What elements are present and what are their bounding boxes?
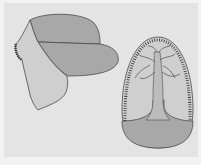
oval-flap [122,37,193,148]
flap-upper-lobe [30,14,100,44]
folded-flap [15,14,118,110]
diagram-canvas [0,0,201,165]
